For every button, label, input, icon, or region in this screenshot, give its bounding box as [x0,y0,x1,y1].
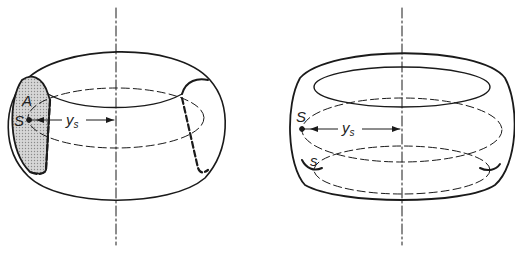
label-arc-s: s [310,152,318,169]
right-centroid-dot [300,127,305,132]
torus-figures: A S ys S ys s [0,0,515,257]
left-inner-rim [48,94,182,108]
left-torus [8,8,225,245]
left-centroid-dot [27,118,32,123]
label-area-a: A [21,92,32,109]
label-centroid-s-right: S [296,108,306,125]
right-cross-section [182,79,208,94]
label-centroid-s-left: S [14,112,24,129]
right-torus [290,8,515,245]
